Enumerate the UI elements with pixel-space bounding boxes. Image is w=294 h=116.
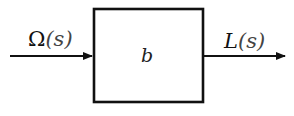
input-signal-label: Ω(s) bbox=[28, 29, 73, 50]
input-symbol: Ω bbox=[28, 27, 45, 51]
block-label: b bbox=[141, 44, 153, 66]
output-argument: (s) bbox=[238, 29, 265, 53]
output-signal-label: L(s) bbox=[224, 31, 265, 52]
input-argument: (s) bbox=[45, 27, 72, 51]
output-symbol: L bbox=[224, 29, 238, 53]
